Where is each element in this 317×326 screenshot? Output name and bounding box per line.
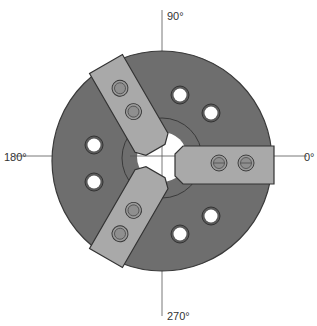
label-270: 270° xyxy=(167,310,190,322)
label-180: 180° xyxy=(4,151,27,163)
hole-left-2 xyxy=(85,173,103,191)
jaw-bolt xyxy=(238,155,254,171)
hole-upper-right-2 xyxy=(202,104,220,122)
chuck-diagram: 90° 180° 0° 270° xyxy=(0,0,317,326)
hole-lower-right-1 xyxy=(202,207,220,225)
hole-left-1 xyxy=(85,136,103,154)
jaw-bolt xyxy=(211,155,227,171)
label-90: 90° xyxy=(167,10,184,22)
hole-lower-right-2 xyxy=(171,225,189,243)
jaw-0deg xyxy=(175,146,274,184)
hole-upper-right-1 xyxy=(171,86,189,104)
label-0: 0° xyxy=(304,151,315,163)
